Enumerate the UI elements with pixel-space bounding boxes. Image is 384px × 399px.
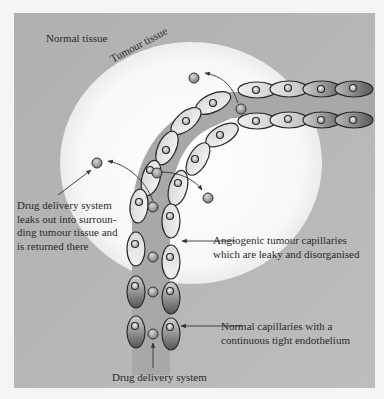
normal-capillaries-annotation: Normal capillaries with a continuous tig… bbox=[221, 320, 350, 347]
diagram: Normal tissue Tumour tissue Drug deliver… bbox=[0, 0, 384, 399]
particle-leaked-top bbox=[189, 73, 199, 83]
particle-leaked-right bbox=[203, 193, 213, 203]
leak-annotation: Drug delivery system leaks out into surr… bbox=[17, 199, 118, 253]
drug-delivery-system-annotation: Drug delivery system bbox=[112, 371, 207, 385]
particle-leaked-left bbox=[92, 158, 102, 168]
particle-exiting-left bbox=[152, 168, 162, 178]
particle-bottom bbox=[148, 329, 158, 339]
particle-exiting-top bbox=[236, 104, 246, 114]
angiogenic-annotation: Angiogenic tumour capillaries which are … bbox=[213, 234, 359, 261]
normal-tissue-label: Normal tissue bbox=[46, 32, 107, 46]
